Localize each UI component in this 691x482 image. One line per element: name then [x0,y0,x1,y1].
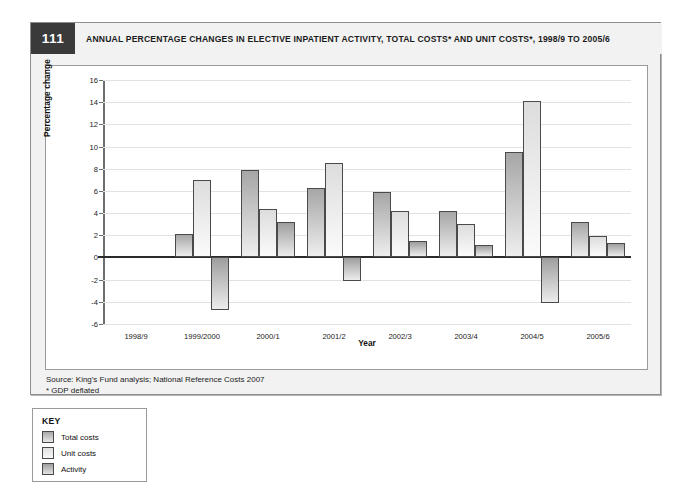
y-axis-tick-label: 16 [90,76,98,85]
bar-group: 1998/9 [103,80,169,324]
legend-swatch-unit [42,447,54,459]
figure-header: 111 ANNUAL PERCENTAGE CHANGES IN ELECTIV… [31,23,662,54]
bar-group: 2005/6 [565,80,631,324]
legend-swatch-total [42,431,54,443]
bar-set [103,80,169,324]
bar-group: 1999/2000 [169,80,235,324]
bar-activity [541,257,559,302]
bar-set [235,80,301,324]
bar-total [175,234,193,257]
grid-line [103,324,631,325]
bar-group: 2000/1 [235,80,301,324]
legend-item-label: Total costs [61,433,99,442]
footnote-line: * GDP deflated [46,386,265,397]
figure-title: ANNUAL PERCENTAGE CHANGES IN ELECTIVE IN… [75,23,662,54]
y-axis-tick-label: 4 [94,209,98,218]
y-axis-tick-label: 6 [94,186,98,195]
bar-activity [211,257,229,309]
source-note: Source: King's Fund analysis; National R… [46,375,265,397]
bar-unit [193,180,211,258]
figure-number-badge: 111 [31,23,75,54]
bar-total [307,188,325,258]
y-axis-tick-label: 8 [94,164,98,173]
y-axis-tick-label: 10 [90,142,98,151]
bar-total [241,170,259,258]
plot-region: 1614121086420-2-4-61998/91999/20002000/1… [103,80,631,324]
bar-total [571,222,589,257]
y-axis-tick-label: -4 [91,297,98,306]
legend-item: Total costs [42,431,146,443]
legend-title: KEY [42,416,146,426]
legend-item-label: Unit costs [61,449,96,458]
bar-activity [607,243,625,257]
bar-set [499,80,565,324]
y-axis-tick-label: 12 [90,120,98,129]
bar-groups: 1998/91999/20002000/12001/22002/32003/42… [103,80,631,324]
bar-unit [391,211,409,258]
figure-panel: 111 ANNUAL PERCENTAGE CHANGES IN ELECTIV… [30,22,661,395]
bar-group: 2003/4 [433,80,499,324]
source-line: Source: King's Fund analysis; National R… [46,375,265,386]
y-axis-tick-mark [99,324,103,325]
bar-set [433,80,499,324]
x-axis-label: Year [103,338,631,348]
bar-set [565,80,631,324]
legend-item: Unit costs [42,447,146,459]
bar-group: 2002/3 [367,80,433,324]
y-axis-tick-label: -2 [91,275,98,284]
bar-total [373,192,391,257]
bar-unit [589,236,607,257]
chart-area: Percentage change 1614121086420-2-4-6199… [45,65,648,370]
legend-swatch-activity [42,463,54,475]
legend-key-box: KEY Total costsUnit costsActivity [32,408,147,482]
legend-item: Activity [42,463,146,475]
bar-unit [259,209,277,258]
y-axis-tick-label: 14 [90,98,98,107]
bar-unit [325,163,343,257]
y-axis-tick-label: 2 [94,231,98,240]
bar-total [505,152,523,257]
bar-set [301,80,367,324]
bar-group: 2004/5 [499,80,565,324]
bar-activity [475,245,493,257]
legend-items: Total costsUnit costsActivity [42,431,146,475]
bar-set [367,80,433,324]
legend-item-label: Activity [61,465,86,474]
y-axis-label: Percentage change [42,38,52,158]
y-axis-tick-label: -6 [91,320,98,329]
bar-unit [457,224,475,257]
bar-activity [343,257,361,280]
bar-group: 2001/2 [301,80,367,324]
bar-total [439,211,457,258]
bar-activity [409,241,427,258]
bar-set [169,80,235,324]
bar-unit [523,101,541,257]
bar-activity [277,222,295,257]
